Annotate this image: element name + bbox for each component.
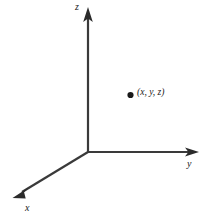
coordinate-axes-figure: z y x (x, y, z): [0, 0, 209, 218]
x-axis-arrowhead-icon: [13, 188, 29, 199]
y-axis-label: y: [187, 159, 191, 169]
x-axis-line: [22, 152, 88, 192]
x-axis-label: x: [25, 203, 29, 213]
axes-drawing: [0, 0, 209, 218]
point-coordinate-label: (x, y, z): [137, 88, 164, 98]
z-axis-label: z: [75, 2, 79, 12]
plotted-point-marker: [127, 92, 133, 98]
